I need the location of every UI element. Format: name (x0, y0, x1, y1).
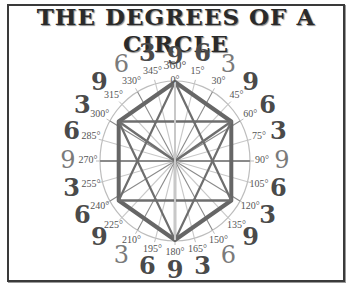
outer-number-225: 9 (91, 222, 108, 251)
degree-label-105: 105° (250, 178, 269, 189)
tick-165 (194, 238, 195, 242)
outer-number-330: 6 (114, 50, 129, 78)
degree-label-255: 255° (81, 178, 100, 189)
outer-number-135: 9 (242, 222, 259, 251)
outer-number-120: 3 (259, 200, 276, 229)
outer-number-60: 6 (259, 90, 276, 119)
tick-315 (119, 102, 122, 105)
tick-300 (107, 119, 110, 121)
outer-number-255: 3 (63, 173, 80, 202)
tick-30 (213, 88, 215, 91)
outer-number-180: 9 (167, 255, 184, 284)
degree-label-300: 300° (90, 108, 109, 119)
degree-label-270: 270° (79, 154, 98, 165)
outer-number-240: 6 (74, 200, 91, 229)
degree-label-90: 90° (255, 154, 269, 165)
outer-number-75: 3 (270, 116, 287, 145)
degree-label-60: 60° (243, 108, 257, 119)
degrees-circle-diagram: 360°0°15°30°45°60°75°90°105°120°135°150°… (0, 0, 352, 287)
tick-60 (240, 119, 243, 121)
outer-number-270: 9 (60, 146, 75, 174)
degree-label-75: 75° (252, 130, 266, 141)
outer-number-345: 3 (139, 38, 156, 67)
degree-label-240: 240° (90, 200, 109, 211)
outer-number-315: 9 (91, 67, 108, 96)
outer-number-300: 3 (74, 90, 91, 119)
outer-number-45: 9 (242, 67, 259, 96)
tick-345 (155, 80, 156, 84)
outer-number-0: 9 (167, 41, 184, 70)
degree-label-285: 285° (81, 130, 100, 141)
degree-label-120: 120° (241, 200, 260, 211)
tick-195 (155, 238, 156, 242)
tick-330 (136, 88, 138, 91)
outer-number-90: 9 (274, 146, 289, 174)
outer-number-210: 3 (114, 241, 129, 269)
tick-15 (194, 80, 195, 84)
degree-label-0: 0° (171, 74, 180, 85)
outer-number-165: 3 (194, 251, 211, 280)
tick-45 (228, 102, 231, 105)
outer-number-30: 3 (221, 50, 236, 78)
outer-number-195: 6 (139, 251, 156, 280)
outer-number-15: 6 (194, 38, 211, 67)
outer-number-285: 6 (63, 116, 80, 145)
outer-number-150: 6 (221, 241, 236, 269)
outer-number-105: 6 (270, 173, 287, 202)
